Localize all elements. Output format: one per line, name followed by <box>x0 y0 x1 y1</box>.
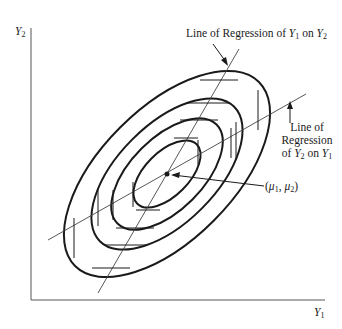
regression-y2-on-y1-label: Line of Regression of Y2 on Y1 <box>272 121 342 162</box>
y-axis-label: Y2 <box>15 25 25 39</box>
mean-label: (μ1, μ2) <box>265 180 298 194</box>
mean-point <box>165 172 170 177</box>
regression-y1-on-y2-label: Line of Regression of Y1 on Y2 <box>186 27 327 41</box>
mean-pointer-arrowhead <box>171 172 180 178</box>
y1-on-y2-pointer-arrowhead <box>221 57 228 66</box>
regression-y2-on-y1-line3: of Y2 on Y1 <box>272 147 342 161</box>
contour-diagram <box>0 0 342 329</box>
regression-y2-on-y1-line1: Line of <box>272 121 342 134</box>
x-axis-label: Y1 <box>314 306 324 320</box>
regression-y2-on-y1-line2: Regression <box>272 134 342 147</box>
